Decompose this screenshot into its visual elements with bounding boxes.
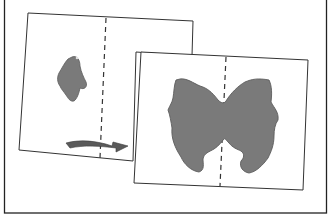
sheet-after [134, 52, 308, 190]
ink-blot-diagram [0, 0, 328, 217]
figure [0, 0, 328, 217]
